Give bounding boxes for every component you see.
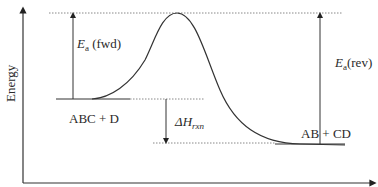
- ea-rev-label: Ea(rev): [335, 56, 372, 69]
- reactants-label: ABC + D: [69, 112, 119, 125]
- delta-h-label: ΔHrxn: [175, 115, 204, 128]
- energy-diagram: [0, 0, 378, 187]
- ea-fwd-label: Ea (fwd): [77, 37, 121, 50]
- products-label: AB + CD: [301, 127, 351, 140]
- y-axis-label: Energy: [3, 65, 19, 102]
